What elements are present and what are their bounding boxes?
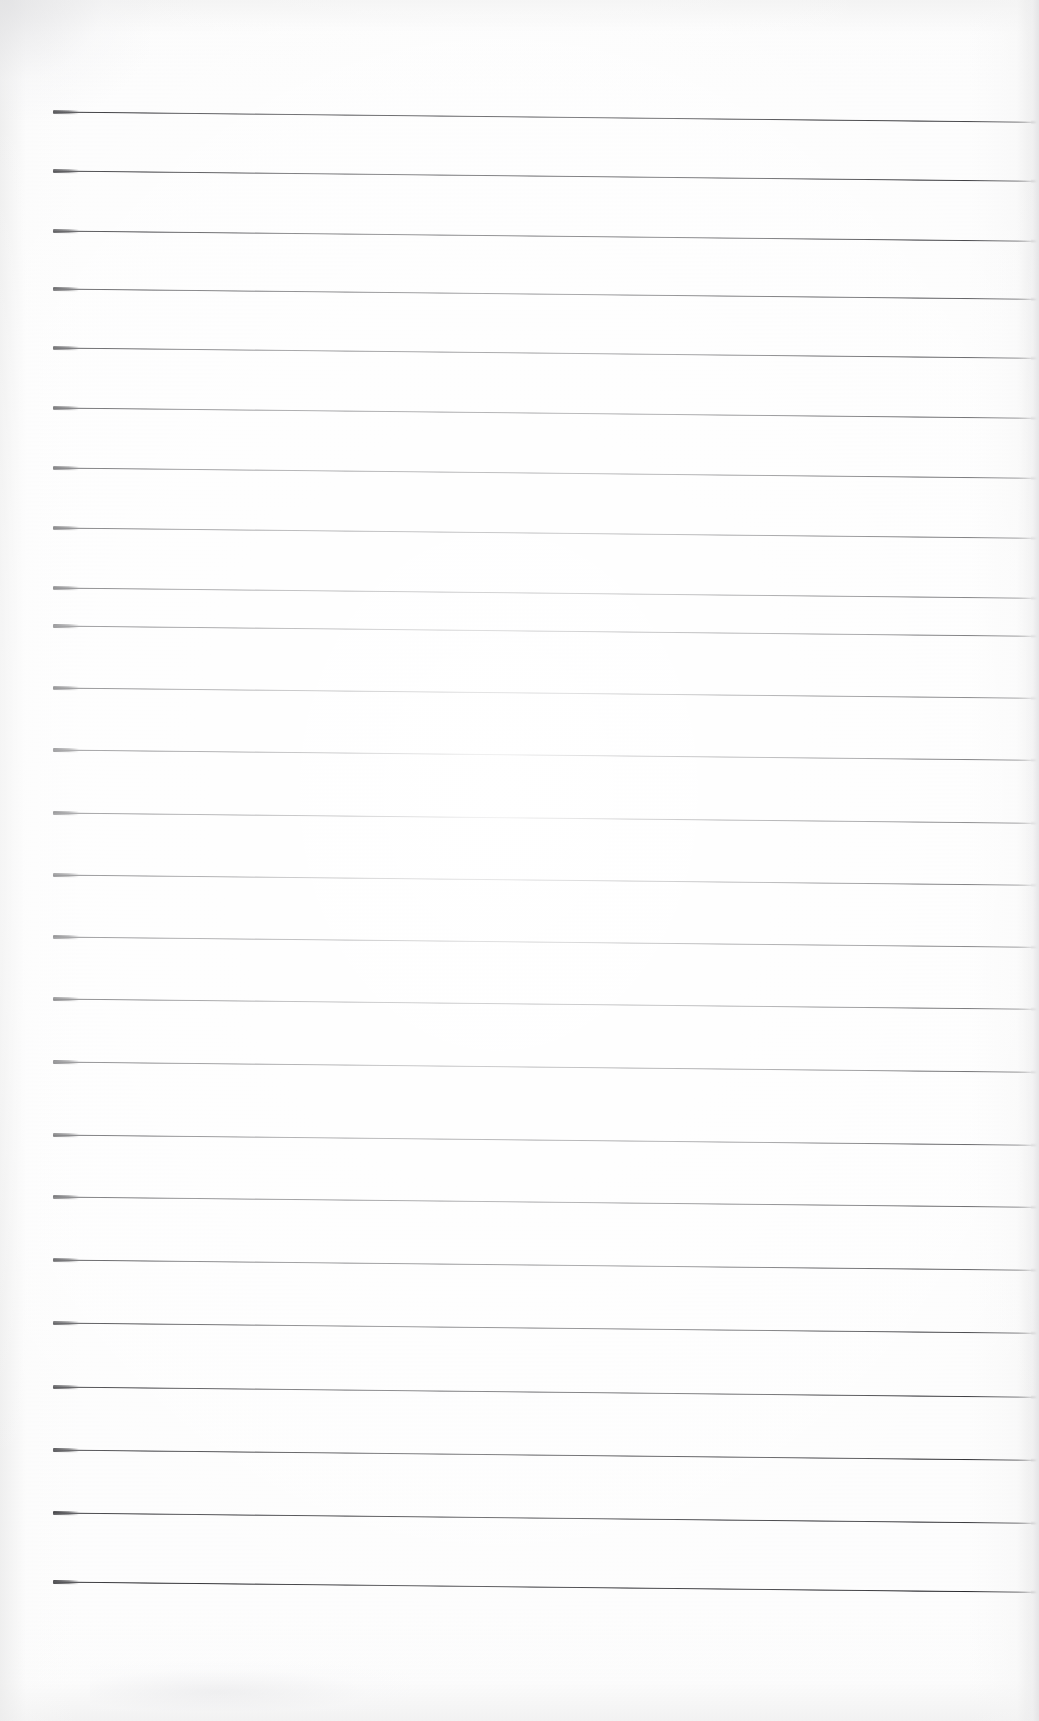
ruled-line (53, 1581, 1036, 1593)
ruled-line (53, 1134, 1036, 1146)
ruled-line (53, 625, 1036, 637)
ruled-line (53, 527, 1036, 539)
ruled-line (53, 1259, 1036, 1271)
ruled-line (53, 1196, 1036, 1208)
ruled-lines-group (0, 0, 1039, 1721)
ruled-line (53, 812, 1036, 824)
scanned-page (0, 0, 1039, 1721)
ruled-line (53, 170, 1036, 182)
ruled-line (53, 111, 1036, 123)
ruled-line (53, 230, 1036, 242)
ruled-line (53, 936, 1036, 948)
ruled-line (53, 467, 1036, 479)
ruled-line (53, 1061, 1036, 1073)
ruled-line (53, 407, 1036, 419)
ruled-line (53, 1322, 1036, 1334)
ruled-line (53, 687, 1036, 699)
ruled-line (53, 749, 1036, 761)
ruled-line (53, 998, 1036, 1010)
ruled-line (53, 587, 1036, 599)
ruled-line (53, 1512, 1036, 1524)
ruled-line (53, 1449, 1036, 1461)
ruled-line (53, 347, 1036, 359)
ruled-line (53, 874, 1036, 886)
ruled-line (53, 1386, 1036, 1398)
ruled-line (53, 288, 1036, 300)
